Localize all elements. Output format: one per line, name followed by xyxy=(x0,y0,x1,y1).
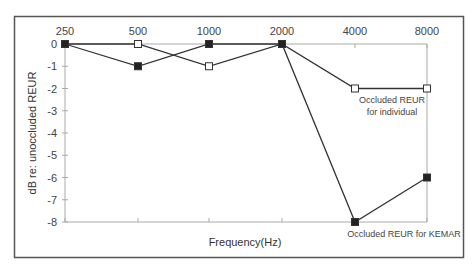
x-tick-label: 1000 xyxy=(197,25,221,37)
open-square-marker xyxy=(352,85,359,92)
y-tick-label: -2 xyxy=(47,83,57,95)
filled-square-marker xyxy=(279,41,286,48)
y-tick-label: -7 xyxy=(47,194,57,206)
filled-square-marker xyxy=(206,41,213,48)
annotation-individual-line1: Occluded REUR xyxy=(359,95,426,105)
chart-frame xyxy=(15,17,464,258)
filled-square-marker xyxy=(135,63,142,70)
annotation-individual-line2: for individual xyxy=(367,107,418,117)
annotation-kemar: Occluded REUR for KEMAR xyxy=(347,229,461,239)
y-tick-label: -6 xyxy=(47,172,57,184)
y-tick-label: 0 xyxy=(51,38,57,50)
x-tick-label: 500 xyxy=(129,25,147,37)
x-tick-label: 4000 xyxy=(343,25,367,37)
open-square-marker xyxy=(424,85,431,92)
y-tick-label: -5 xyxy=(47,149,57,161)
x-tick-label: 2000 xyxy=(270,25,294,37)
y-tick-label: -3 xyxy=(47,105,57,117)
x-axis-title: Frequency(Hz) xyxy=(209,236,282,248)
y-axis-title: dB re: unoccluded REUR xyxy=(26,72,38,195)
chart: 25050010002000400080000-1-2-3-4-5-6-7-8 … xyxy=(0,0,474,272)
open-square-marker xyxy=(135,41,142,48)
y-tick-label: -1 xyxy=(47,60,57,72)
filled-square-marker xyxy=(424,174,431,181)
x-tick-label: 8000 xyxy=(415,25,439,37)
x-tick-label: 250 xyxy=(56,25,74,37)
open-square-marker xyxy=(206,63,213,70)
filled-square-marker xyxy=(62,41,69,48)
y-tick-label: -8 xyxy=(47,216,57,228)
filled-square-marker xyxy=(352,219,359,226)
y-tick-label: -4 xyxy=(47,127,57,139)
